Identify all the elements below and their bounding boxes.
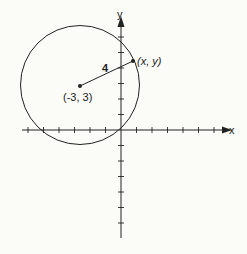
circle-diagram: x y 4 (-3, 3) (x, y) bbox=[0, 0, 247, 254]
x-axis bbox=[22, 127, 224, 133]
diagram-canvas: x y 4 (-3, 3) (x, y) bbox=[0, 0, 247, 254]
center-point bbox=[78, 84, 82, 88]
y-axis bbox=[118, 20, 124, 238]
point-label: (x, y) bbox=[137, 55, 162, 67]
center-label: (-3, 3) bbox=[63, 91, 92, 103]
radius-label: 4 bbox=[102, 62, 109, 74]
y-axis-label: y bbox=[117, 8, 123, 20]
point-xy bbox=[131, 59, 135, 63]
x-axis-label: x bbox=[229, 124, 235, 136]
